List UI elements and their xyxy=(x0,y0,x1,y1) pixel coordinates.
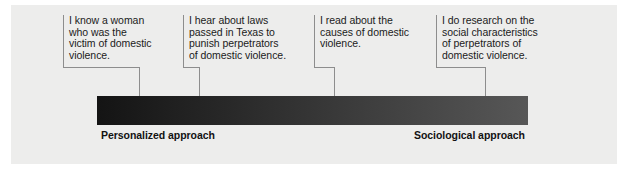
callout-elbow-4 xyxy=(436,67,485,68)
callout-text-2: I hear about laws passed in Texas to pun… xyxy=(189,15,301,62)
callout-text-1: I know a woman who was the victim of dom… xyxy=(69,15,171,62)
callout-box-3: I read about the causes of domestic viol… xyxy=(314,15,424,55)
callout-box-1: I know a woman who was the victim of dom… xyxy=(63,15,171,67)
spectrum-label-left: Personalized approach xyxy=(101,129,215,141)
callout-text-3: I read about the causes of domestic viol… xyxy=(320,15,424,50)
callout-elbow-1 xyxy=(63,67,139,68)
callout-text-4: I do research on the social characterist… xyxy=(442,15,560,62)
spectrum-label-right: Sociological approach xyxy=(414,129,525,141)
callout-elbow-3 xyxy=(314,67,334,68)
callout-drop-3 xyxy=(334,67,335,96)
callout-drop-4 xyxy=(485,67,486,96)
figure-container: I know a woman who was the victim of dom… xyxy=(0,0,628,169)
callout-box-4: I do research on the social characterist… xyxy=(436,15,560,67)
callout-drop-1 xyxy=(139,67,140,96)
callout-drop-2 xyxy=(199,67,200,96)
callout-box-2: I hear about laws passed in Texas to pun… xyxy=(183,15,301,67)
callout-elbow-2 xyxy=(183,67,199,68)
callout-drop-3-riser xyxy=(314,55,315,67)
figure-panel: I know a woman who was the victim of dom… xyxy=(11,5,617,164)
spectrum-gradient-bar xyxy=(97,96,528,125)
